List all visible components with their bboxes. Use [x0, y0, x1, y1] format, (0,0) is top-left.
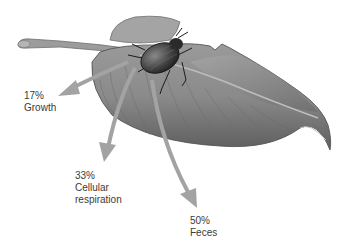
respiration-percent: 33%	[75, 170, 122, 182]
label-growth: 17% Growth	[24, 90, 56, 114]
energy-flow-diagram: 17% Growth 33% Cellular respiration 50% …	[0, 0, 349, 248]
growth-text: Growth	[24, 102, 56, 114]
label-feces: 50% Feces	[190, 215, 217, 239]
label-respiration: 33% Cellular respiration	[75, 170, 122, 206]
respiration-text-line2: respiration	[75, 194, 122, 206]
feces-percent: 50%	[190, 215, 217, 227]
leaf-top-lobe	[110, 16, 180, 43]
respiration-text-line1: Cellular	[75, 182, 122, 194]
leaf-beetle-illustration	[0, 0, 349, 248]
growth-percent: 17%	[24, 90, 56, 102]
feces-text: Feces	[190, 227, 217, 239]
